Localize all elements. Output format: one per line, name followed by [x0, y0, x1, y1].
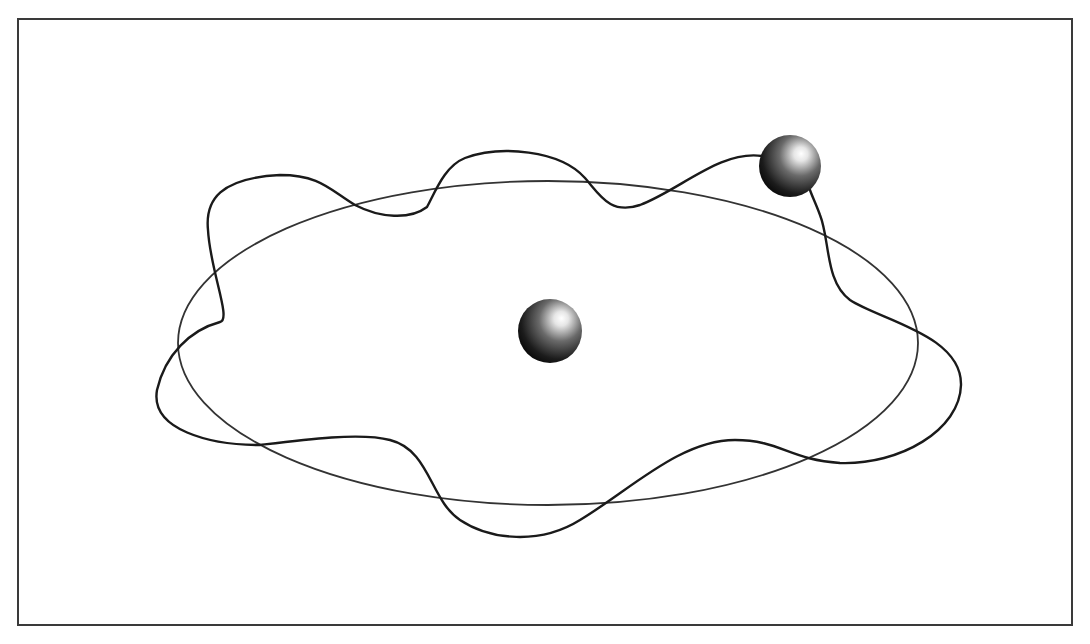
orbiting-body-sphere — [759, 135, 821, 197]
orbit-diagram — [0, 0, 1090, 644]
central-body-sphere — [518, 299, 582, 363]
